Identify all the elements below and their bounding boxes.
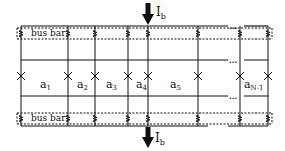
top-bus-bar-label: bus bar	[31, 29, 65, 38]
segment-label-a1: a1	[40, 79, 51, 92]
bus-bar-diagram: ... ... ... bus bar bus bar Ib Ib a1 a2 …	[0, 0, 285, 151]
bottom-bus-bar-label: bus bar	[31, 114, 65, 123]
ellipsis-top: ...	[229, 22, 237, 30]
current-out-label: Ib	[155, 132, 165, 147]
segment-dividers	[21, 26, 268, 126]
ellipsis-middle: ...	[229, 56, 237, 64]
resistor-icons	[19, 30, 270, 122]
segment-label-a4: a4	[136, 79, 147, 92]
diagram-canvas	[0, 0, 285, 151]
current-in-label: Ib	[156, 6, 166, 21]
ellipsis-bottom: ...	[229, 92, 237, 100]
segment-label-aN-1: aN-1	[244, 79, 264, 92]
segment-label-a5: a5	[170, 79, 181, 92]
current-out-arrow-icon	[142, 127, 154, 148]
segment-label-a3: a3	[106, 79, 117, 92]
current-in-arrow-icon	[142, 3, 154, 25]
segment-label-a2: a2	[77, 79, 88, 92]
